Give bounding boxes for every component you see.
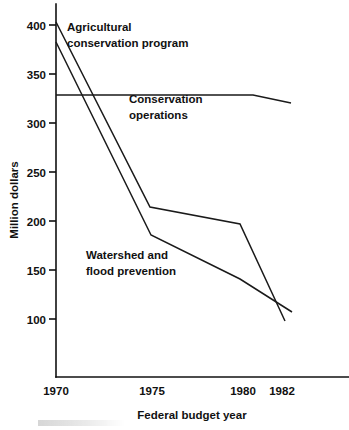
page-edge-artifact bbox=[38, 420, 124, 426]
x-tick-label-1982: 1982 bbox=[269, 385, 295, 397]
y-tick-label-200: 200 bbox=[27, 216, 46, 228]
y-tick-label-150: 150 bbox=[27, 265, 46, 277]
chart-figure: 400 350 300 250 200 150 100 1970 1975 19… bbox=[0, 0, 349, 430]
y-tick-label-250: 250 bbox=[27, 167, 46, 179]
annotation-agricultural-line1: Agricultural bbox=[67, 21, 132, 33]
y-tick-labels: 400 350 300 250 200 150 100 bbox=[27, 20, 46, 326]
annotation-watershed-line2: flood prevention bbox=[86, 265, 176, 277]
y-tick-label-400: 400 bbox=[27, 20, 46, 32]
y-tick-label-100: 100 bbox=[27, 314, 46, 326]
x-tick-label-1975: 1975 bbox=[139, 385, 165, 397]
x-tick-labels: 1970 1975 1980 1982 bbox=[43, 385, 295, 397]
annotation-agricultural-line2: conservation program bbox=[67, 37, 188, 49]
y-tick-marks bbox=[49, 25, 56, 319]
x-axis-title: Federal budget year bbox=[137, 409, 247, 421]
chart-axes bbox=[49, 4, 349, 377]
y-axis-title: Million dollars bbox=[8, 161, 20, 238]
x-tick-label-1970: 1970 bbox=[43, 385, 69, 397]
x-tick-label-1980: 1980 bbox=[230, 385, 256, 397]
y-tick-label-300: 300 bbox=[27, 118, 46, 130]
annotation-conservation-line1: Conservation bbox=[129, 93, 203, 105]
line-chart: 400 350 300 250 200 150 100 1970 1975 19… bbox=[0, 0, 349, 430]
annotation-watershed-line1: Watershed and bbox=[86, 249, 168, 261]
series-annotations: Agricultural conservation program Conser… bbox=[67, 21, 203, 277]
annotation-conservation-line2: operations bbox=[129, 109, 188, 121]
y-tick-label-350: 350 bbox=[27, 69, 46, 81]
